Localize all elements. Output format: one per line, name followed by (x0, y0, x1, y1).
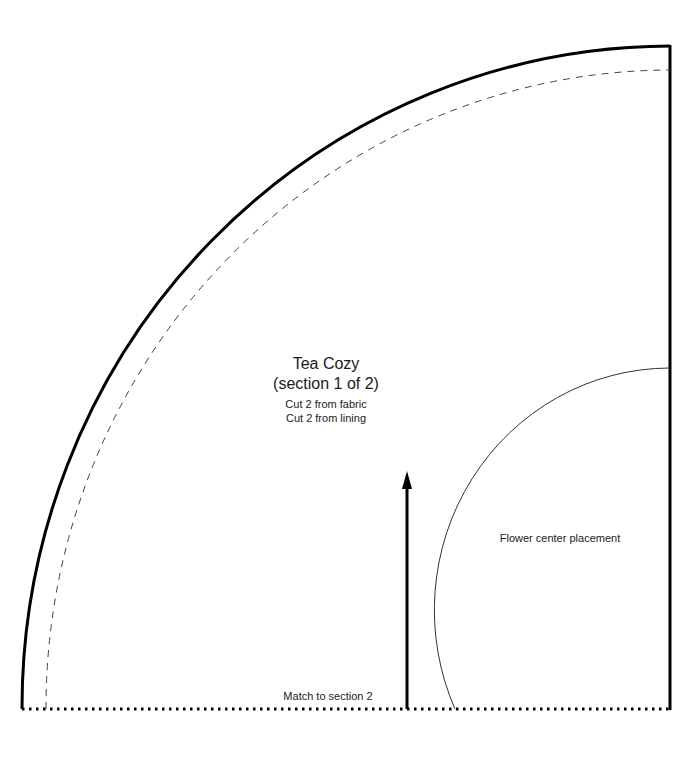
pattern-subtitle: (section 1 of 2) (231, 374, 421, 394)
cut-instruction-lining: Cut 2 from lining (231, 411, 421, 425)
pattern-title: Tea Cozy (231, 354, 421, 374)
match-edge-label: Match to section 2 (258, 689, 398, 703)
grainline-arrow-head-icon (402, 471, 412, 489)
flower-placement-label: Flower center placement (470, 531, 650, 545)
cut-instruction-fabric: Cut 2 from fabric (231, 397, 421, 411)
